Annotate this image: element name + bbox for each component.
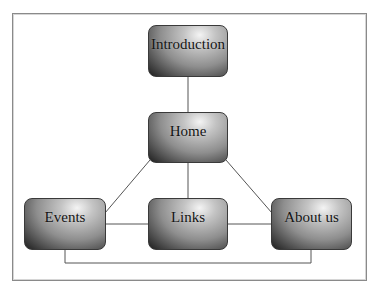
node-introduction[interactable]: Introduction <box>148 25 228 77</box>
node-links[interactable]: Links <box>148 198 228 250</box>
node-introduction-label: Introduction <box>151 36 225 53</box>
node-home[interactable]: Home <box>148 112 228 163</box>
node-about-us-label: About us <box>284 209 339 226</box>
node-about-us[interactable]: About us <box>271 198 352 250</box>
edge-home-about <box>226 160 272 213</box>
edge-events-about <box>65 250 311 263</box>
node-events-label: Events <box>45 209 86 226</box>
node-links-label: Links <box>171 209 205 226</box>
node-events[interactable]: Events <box>24 198 106 250</box>
edge-home-events <box>105 160 150 213</box>
node-home-label: Home <box>170 123 207 140</box>
